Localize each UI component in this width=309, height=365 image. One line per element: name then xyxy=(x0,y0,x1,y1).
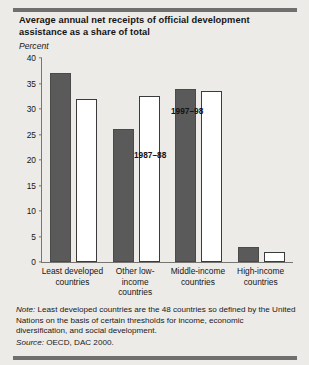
bar-group xyxy=(168,58,231,262)
bar-group xyxy=(230,58,293,262)
y-tick-15: 15 xyxy=(6,181,42,191)
series-label-1987-88: 1987–88 xyxy=(134,150,166,160)
note-label: Note: xyxy=(16,305,35,314)
bar xyxy=(76,99,97,262)
bar-groups xyxy=(42,58,293,262)
y-tick-5: 5 xyxy=(6,232,42,242)
y-tick-40: 40 xyxy=(6,53,42,63)
x-axis-label: High-income countries xyxy=(229,266,292,298)
bar-group xyxy=(42,58,105,262)
x-axis-labels: Least developed countriesOther low-incom… xyxy=(41,266,292,298)
x-axis-label: Middle-income countries xyxy=(167,266,230,298)
footnotes: Note: Least developed countries are the … xyxy=(16,305,296,349)
source-label: Source: xyxy=(16,338,44,347)
y-tick-30: 30 xyxy=(6,104,42,114)
figure-panel: Average annual net receipts of official … xyxy=(0,0,309,365)
source-line: Source: OECD, DAC 2000. xyxy=(16,338,296,349)
bar-group xyxy=(105,58,168,262)
x-axis-label: Other low-income countries xyxy=(104,266,167,298)
chart-subtitle: Percent xyxy=(19,41,287,52)
series-label-1997-98: 1997–98 xyxy=(171,106,203,116)
y-tick-25: 25 xyxy=(6,130,42,140)
plot-area: 0510152025303540 1987–88 1997–98 xyxy=(41,58,293,263)
title-block: Average annual net receipts of official … xyxy=(19,15,287,52)
bar xyxy=(113,129,134,262)
source-text: OECD, DAC 2000. xyxy=(44,338,114,347)
bottom-rule xyxy=(13,356,297,360)
y-tick-20: 20 xyxy=(6,155,42,165)
note-line: Note: Least developed countries are the … xyxy=(16,305,296,337)
y-tick-10: 10 xyxy=(6,206,42,216)
y-tick-35: 35 xyxy=(6,79,42,89)
y-tick-0: 0 xyxy=(6,257,42,267)
bar xyxy=(50,73,71,262)
top-rule xyxy=(13,8,297,12)
bar xyxy=(139,96,160,262)
bar xyxy=(264,252,285,262)
chart-title: Average annual net receipts of official … xyxy=(19,15,287,39)
bar xyxy=(201,91,222,262)
note-text: Least developed countries are the 48 cou… xyxy=(16,305,295,335)
bar xyxy=(238,247,259,262)
x-axis-label: Least developed countries xyxy=(41,266,104,298)
